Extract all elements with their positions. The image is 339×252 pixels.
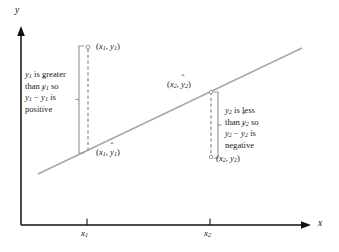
point-y-sub: 2 xyxy=(185,82,188,89)
hat-accent: ̂ xyxy=(41,87,45,98)
note-line: y2 is less xyxy=(225,105,285,117)
minus-sign: − xyxy=(232,128,241,138)
point-x-sub: 2 xyxy=(174,82,177,89)
note-line: y1 is greater xyxy=(25,69,83,81)
x-axis-arrowhead xyxy=(301,221,311,229)
note-text: so xyxy=(49,81,59,91)
point-y-sub: 1 xyxy=(114,44,117,51)
tick-subscript: 2 xyxy=(208,231,211,238)
point-x-sub: 1 xyxy=(103,44,106,51)
tick-subscript: 1 xyxy=(85,231,88,238)
point-label-x2-y2: (x2, y2) xyxy=(216,153,240,165)
point-x-sub: 1 xyxy=(103,150,106,157)
note-line: y1 − ̂y1 is xyxy=(25,92,83,104)
hat-accent: ̂ xyxy=(181,74,185,85)
point-x-sub: 2 xyxy=(223,156,226,163)
hat-accent: ̂ xyxy=(110,142,114,153)
point-label-x1-yhat1: (x1, ̂y1) xyxy=(96,147,120,159)
note-text: so xyxy=(249,117,259,127)
point-y-sub: 1 xyxy=(114,150,117,157)
note-line: than ̂y1 so xyxy=(25,81,83,93)
note-line: than ̂y2 so xyxy=(225,117,285,129)
note-line: positive xyxy=(25,104,83,115)
minus-sign: − xyxy=(32,92,41,102)
x-tick-label-x1: x1 xyxy=(81,228,88,238)
note-text: than xyxy=(25,81,42,91)
x-tick-label-x2: x2 xyxy=(204,228,211,238)
point-label-x1-y1: (x1, y1) xyxy=(96,41,120,53)
right-residual-bracket xyxy=(214,92,219,158)
figure-canvas xyxy=(0,0,339,252)
point-label-x2-yhat2: (x2, ̂y2) xyxy=(167,79,191,91)
hat-accent: ̂ xyxy=(242,112,246,123)
note-text: than xyxy=(225,117,242,127)
x-axis-label: x xyxy=(318,218,322,228)
observed-point-marker-1 xyxy=(86,45,90,49)
regression-residual-figure: y x x1 x2 (x1, y1) (x1, ̂y1) (x2, ̂y2) (… xyxy=(0,0,339,252)
observed-point-marker-2 xyxy=(209,155,212,158)
positive-residual-note: y1 is greater than ̂y1 so y1 − ̂y1 is po… xyxy=(25,69,83,115)
hat-accent: ̂ xyxy=(42,76,46,87)
note-text: is greater xyxy=(32,69,66,79)
note-line: y2 − ̂y2 is xyxy=(225,128,285,140)
note-text: is xyxy=(48,92,56,102)
y-axis-arrowhead xyxy=(17,26,25,36)
negative-residual-note: y2 is less than ̂y2 so y2 − ̂y2 is negat… xyxy=(225,105,285,151)
hat-accent: ̂ xyxy=(241,123,245,134)
predicted-point-marker-2 xyxy=(209,90,212,93)
note-text: is xyxy=(248,128,256,138)
point-y-sub: 2 xyxy=(234,156,237,163)
note-line: negative xyxy=(225,140,285,151)
y-axis-label: y xyxy=(15,5,19,15)
